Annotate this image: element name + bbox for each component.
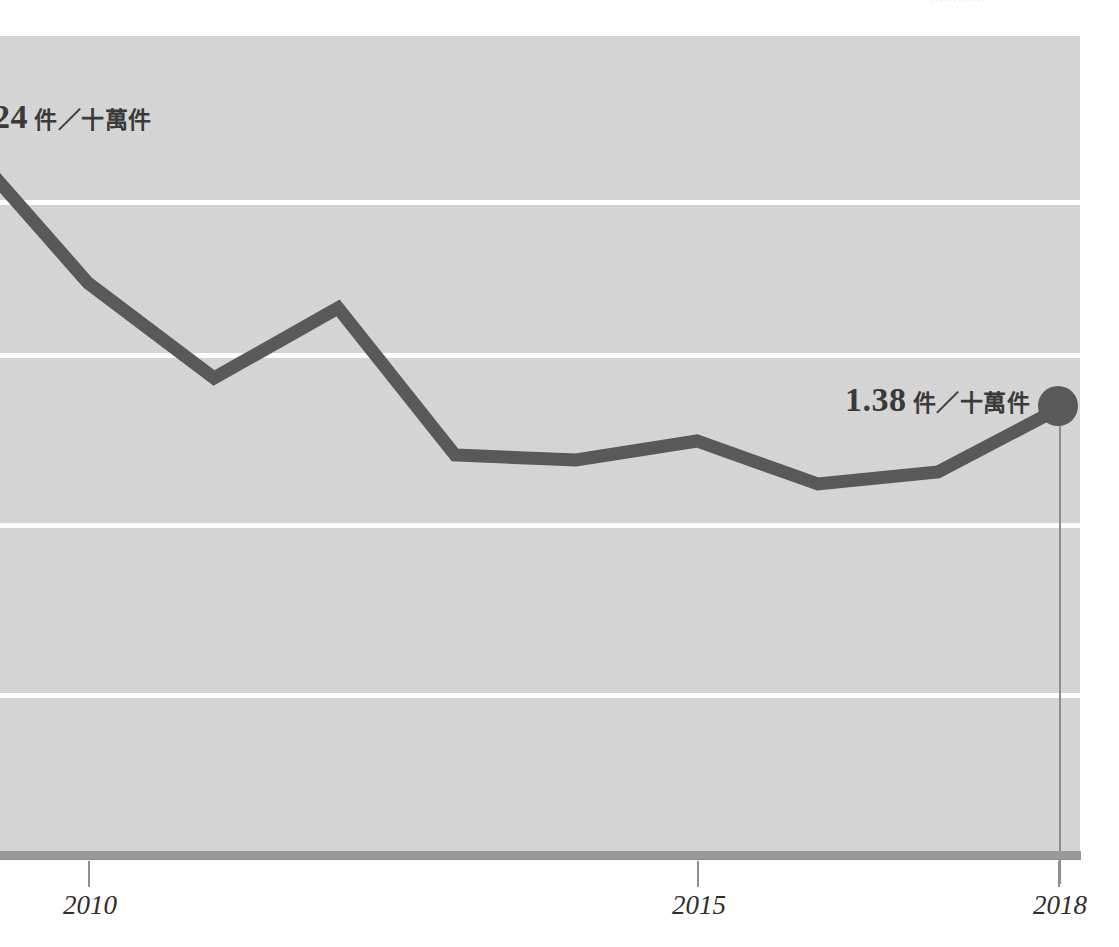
series-line-layer bbox=[0, 0, 1119, 947]
end-point-marker bbox=[1038, 386, 1078, 426]
start-value-number: .24 bbox=[0, 98, 28, 135]
x-tick-2010 bbox=[88, 861, 90, 887]
x-axis-label-2018: 2018 bbox=[1033, 890, 1087, 921]
series-line-path bbox=[0, 160, 1058, 484]
x-tick-2015 bbox=[697, 861, 699, 887]
line-chart: 2010 2015 2018 .24件／十萬件 1.38件／十萬件 bbox=[0, 0, 1119, 947]
x-tick-2018 bbox=[1058, 861, 1060, 887]
x-axis-label-2010: 2010 bbox=[63, 890, 117, 921]
end-value-number: 1.38 bbox=[845, 381, 907, 418]
end-value-callout: 1.38件／十萬件 bbox=[845, 383, 1030, 417]
start-value-unit: 件／十萬件 bbox=[34, 107, 152, 133]
end-value-unit: 件／十萬件 bbox=[913, 390, 1031, 416]
start-value-callout: .24件／十萬件 bbox=[0, 100, 152, 134]
scanned-page: ············ 2010 2015 2018 .24件／十萬件 1. bbox=[0, 0, 1119, 947]
x-axis-label-2015: 2015 bbox=[672, 890, 726, 921]
